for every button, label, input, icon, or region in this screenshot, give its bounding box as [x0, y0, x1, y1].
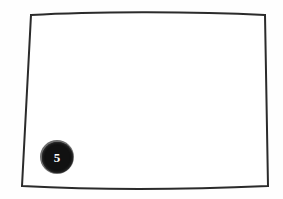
image-canvas: 5	[0, 0, 283, 199]
numbered-marker-badge[interactable]: 5	[40, 140, 74, 174]
badge-disc: 5	[42, 142, 73, 173]
badge-number-label: 5	[54, 151, 61, 164]
